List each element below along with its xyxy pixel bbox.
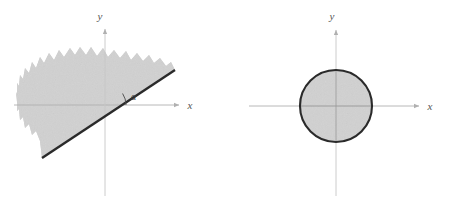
math-diagram-svg: x y α x y — [0, 0, 453, 204]
angle-alpha-label: α — [131, 91, 137, 102]
y-axis-label-right: y — [329, 10, 335, 22]
x-axis-label-right: x — [427, 100, 433, 112]
x-axis-label: x — [187, 99, 193, 111]
figure-container: x y α x y — [0, 0, 453, 204]
y-axis-label: y — [97, 10, 103, 22]
